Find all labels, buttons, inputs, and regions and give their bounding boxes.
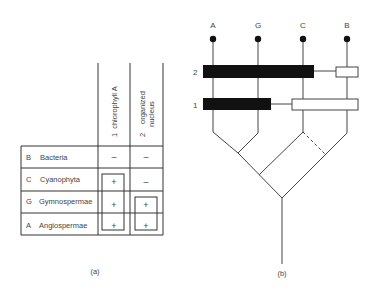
caption-a: (a) [90, 267, 100, 276]
taxon-label-g: G [255, 21, 261, 30]
row-name: Gymnospermae [39, 197, 92, 206]
table-header: 1chlorophyll A 2 organized nucleus [110, 86, 156, 137]
taxon-dot-b [344, 36, 350, 42]
column-header-chlorophyll: 1chlorophyll A [110, 86, 119, 137]
bar-1-primitive [292, 99, 358, 110]
row-name: Bacteria [40, 153, 68, 162]
row-code: G [26, 197, 32, 206]
cell-chlorophyll: – [111, 152, 116, 162]
cell-chlorophyll: + [111, 221, 116, 231]
taxon-dot-a [210, 36, 216, 42]
caption-b: (b) [277, 269, 287, 278]
character-label-2: 2 [193, 68, 198, 77]
cell-chlorophyll: + [111, 177, 116, 187]
row-code: A [26, 221, 31, 230]
character-bar-1: 1 [193, 98, 358, 110]
bar-2-derived [203, 65, 314, 78]
row-name: Angiospermae [39, 221, 87, 230]
bar-1-derived [203, 98, 271, 110]
taxon-dot-g [255, 36, 261, 42]
taxon-dots [210, 36, 350, 42]
cell-nucleus: – [143, 177, 148, 187]
character-label-1: 1 [193, 101, 198, 110]
taxon-dot-c [300, 36, 306, 42]
character-table [21, 63, 163, 235]
column-header-nucleus-line1: organized [138, 91, 147, 124]
bar-2-primitive [336, 67, 358, 77]
alternative-branch-dashed [303, 132, 325, 154]
taxon-label-b: B [344, 21, 349, 30]
row-name: Cyanophyta [40, 175, 81, 184]
column-header-nucleus-line2: nucleus [147, 101, 156, 127]
taxon-label-c: C [300, 21, 306, 30]
column-header-nucleus-number: 2 [138, 133, 147, 137]
taxon-label-a: A [210, 21, 216, 30]
row-code: C [26, 175, 32, 184]
cell-nucleus: + [143, 200, 148, 210]
cell-nucleus: – [143, 152, 148, 162]
cell-nucleus: + [143, 221, 148, 231]
row-code: B [26, 153, 31, 162]
character-bar-2: 2 [193, 65, 358, 78]
taxon-labels: A G C B [210, 21, 349, 30]
cell-chlorophyll: + [111, 200, 116, 210]
figure: 1chlorophyll A 2 organized nucleus B Bac… [0, 0, 378, 295]
